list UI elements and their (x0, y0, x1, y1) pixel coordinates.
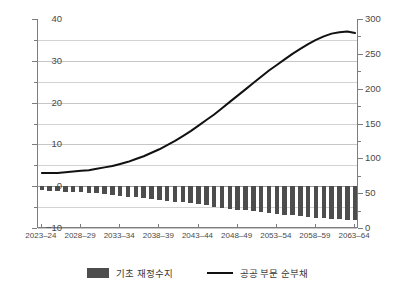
left-axis-tick (32, 186, 37, 187)
right-axis-label: 250 (365, 49, 381, 59)
x-axis-tick (41, 224, 42, 228)
x-axis-tick (198, 224, 199, 228)
left-axis-tick (34, 82, 37, 83)
plot-area (37, 19, 358, 228)
left-axis-label: 30 (51, 56, 62, 66)
x-axis-label: 2053–54 (260, 231, 291, 240)
x-axis-tick (237, 224, 238, 228)
right-axis-tick (358, 19, 363, 20)
legend-item-primary-balance[interactable]: 기초 재정수지 (87, 266, 173, 280)
legend-label-primary-balance: 기초 재정수지 (116, 266, 173, 280)
right-axis-tick (358, 211, 361, 212)
line-swatch-icon (207, 272, 233, 274)
right-axis-label: 200 (365, 84, 381, 94)
right-axis-tick (358, 176, 361, 177)
right-axis-tick (358, 141, 361, 142)
right-axis-tick (358, 228, 363, 229)
line-series-공공-부문-순부채 (38, 19, 359, 228)
right-axis-tick (358, 193, 363, 194)
left-axis-label: 10 (51, 139, 62, 149)
left-axis-tick (34, 40, 37, 41)
chart-legend: 기초 재정수지 공공 부문 순부채 (0, 266, 395, 280)
x-axis-tick (276, 224, 277, 228)
left-axis-label: 40 (51, 14, 62, 24)
left-axis-label: 20 (51, 98, 62, 108)
right-axis-tick (358, 71, 361, 72)
x-axis-label: 2028–29 (64, 231, 95, 240)
right-axis-tick (358, 36, 361, 37)
right-axis-label: 50 (365, 188, 376, 198)
left-axis-tick (34, 124, 37, 125)
left-axis-tick (32, 19, 37, 20)
x-axis-tick (158, 224, 159, 228)
x-axis-label: 2058–59 (299, 231, 330, 240)
right-axis-tick (358, 54, 363, 55)
x-axis-tick (119, 224, 120, 228)
x-axis-label: 2048–49 (221, 231, 252, 240)
x-axis-label: 2023–24 (25, 231, 56, 240)
right-axis-tick (358, 158, 363, 159)
x-axis-label: 2038–39 (143, 231, 174, 240)
x-axis-tick (354, 224, 355, 228)
left-axis-label: 0 (57, 181, 62, 191)
legend-label-public-sector-net-debt: 공공 부문 순부채 (240, 266, 308, 280)
left-axis-tick (32, 61, 37, 62)
right-axis-label: 100 (365, 153, 381, 163)
bar-swatch-icon (87, 268, 109, 278)
gridline (38, 228, 357, 229)
left-axis-tick (32, 144, 37, 145)
left-axis-tick (32, 228, 37, 229)
legend-item-public-sector-net-debt[interactable]: 공공 부문 순부채 (207, 266, 308, 280)
chart-container: −10010203040 050100150200250300 2023–242… (0, 0, 395, 292)
right-axis-tick (358, 89, 363, 90)
left-axis-tick (32, 103, 37, 104)
x-axis-tick (315, 224, 316, 228)
x-axis-label: 2063–64 (339, 231, 370, 240)
x-axis-label: 2033–34 (104, 231, 135, 240)
right-axis-tick (358, 124, 363, 125)
right-axis-label: 150 (365, 119, 381, 129)
right-axis-label: 300 (365, 14, 381, 24)
left-axis-tick (34, 165, 37, 166)
x-axis-label: 2043–44 (182, 231, 213, 240)
x-axis-tick (80, 224, 81, 228)
right-axis-tick (358, 106, 361, 107)
left-axis-tick (34, 207, 37, 208)
